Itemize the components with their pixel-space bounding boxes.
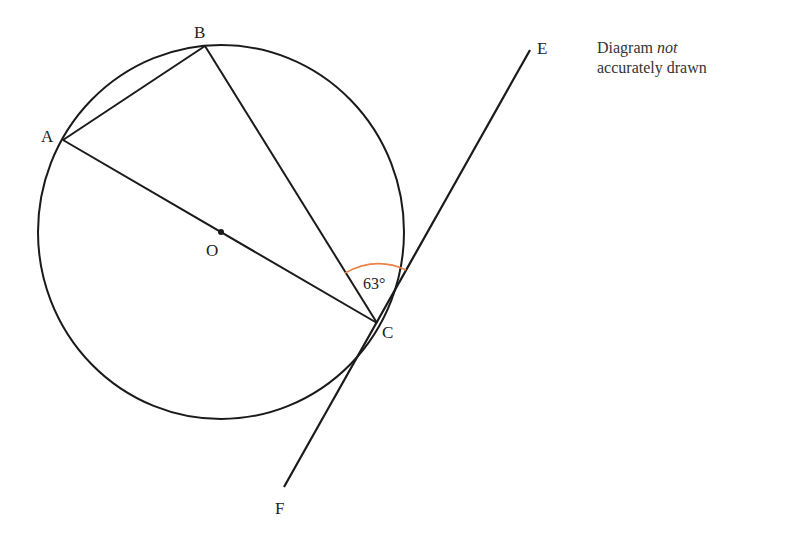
label-o: O: [206, 242, 218, 259]
label-a: A: [41, 128, 53, 145]
label-f: F: [275, 500, 284, 517]
center-point-o: [218, 229, 224, 235]
note-prefix: Diagram: [597, 39, 653, 56]
chord-bc: [205, 46, 377, 323]
label-c: C: [382, 324, 393, 341]
tangent-ef: [284, 50, 530, 487]
circle-theorem-diagram: A B O C E F 63° Diagram not accurately d…: [0, 0, 791, 536]
angle-arc: [345, 264, 406, 273]
not-accurately-drawn-note: Diagram not accurately drawn: [597, 38, 707, 78]
chord-ab: [63, 46, 205, 140]
note-italic: not: [657, 39, 677, 56]
note-line2: accurately drawn: [597, 58, 707, 78]
diagram-svg: [0, 0, 791, 536]
label-e: E: [537, 40, 547, 57]
label-b: B: [194, 24, 205, 41]
angle-label: 63°: [363, 276, 385, 292]
